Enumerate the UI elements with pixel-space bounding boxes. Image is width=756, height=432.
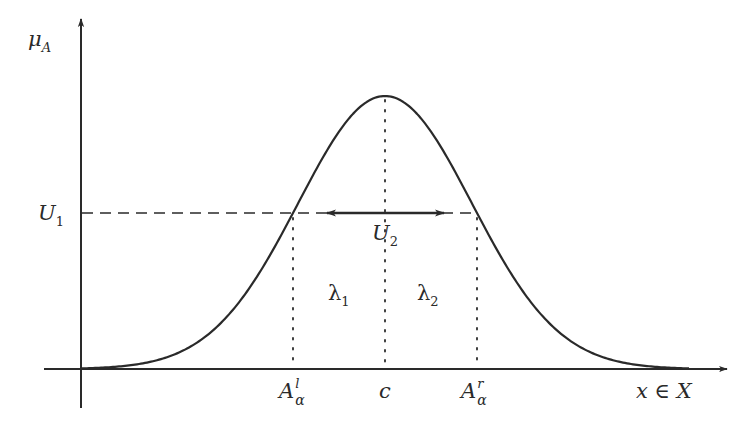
membership-function-diagram — [0, 0, 756, 432]
tick-label-right-alpha-cut: Arα — [461, 381, 476, 402]
tick-center-main: c — [379, 379, 391, 403]
left-region-label: λ1 — [328, 283, 350, 304]
tick-left-sup: l — [295, 377, 299, 390]
left-region-label-main: λ — [328, 281, 341, 305]
alpha-level-label: U1 — [38, 203, 64, 224]
y-axis-label-main: μ — [28, 27, 42, 51]
x-axis-label-main: x ∈ X — [636, 379, 692, 403]
width-arrow-label: U2 — [372, 223, 398, 244]
x-axis-label: x ∈ X — [636, 381, 692, 402]
tick-right-sub: α — [477, 393, 486, 407]
right-region-label-main: λ — [417, 281, 430, 305]
tick-left-sub: α — [295, 393, 304, 407]
width-arrow-label-main: U — [372, 221, 390, 245]
tick-left-main: A — [279, 379, 294, 403]
alpha-level-label-sub: 1 — [56, 214, 64, 229]
width-arrow-label-sub: 2 — [390, 234, 398, 249]
y-axis-label-sub: A — [42, 40, 51, 55]
right-region-label: λ2 — [417, 283, 439, 304]
tick-right-sup: r — [477, 377, 483, 390]
tick-label-center: c — [379, 381, 391, 402]
left-region-label-sub: 1 — [341, 294, 349, 309]
alpha-level-label-main: U — [38, 201, 56, 225]
y-axis-label: μA — [28, 29, 51, 50]
tick-label-left-alpha-cut: Alα — [279, 381, 294, 402]
right-region-label-sub: 2 — [430, 294, 438, 309]
tick-right-main: A — [461, 379, 476, 403]
